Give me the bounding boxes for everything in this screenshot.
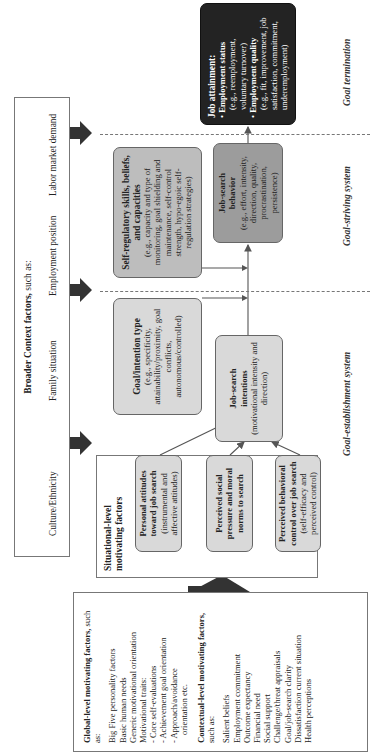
goal-intention-type-box: Goal/intention type (e.g., specificity, … bbox=[113, 298, 202, 415]
global-item: Basic human needs bbox=[118, 601, 128, 743]
situational-title: Situational-level motivating factors bbox=[103, 466, 125, 571]
context-item-labor: Labor market demand bbox=[48, 114, 58, 196]
context-item-family: Family situation bbox=[48, 340, 58, 401]
attainment-bullet: • Employment status bbox=[217, 42, 227, 118]
behavioral-control-box: Perceived behavioral control over job se… bbox=[275, 455, 321, 552]
job-search-model-diagram: Global-level motivating factors, such as… bbox=[0, 0, 379, 756]
contextual-item: Financial need bbox=[252, 601, 262, 743]
attainment-bullet: • Employment quality bbox=[248, 38, 258, 118]
global-item: Motivational traits: bbox=[138, 601, 148, 743]
job-search-intentions-box: Job-search intentions (motivational inte… bbox=[215, 335, 283, 442]
social-pressure-box: Perceived social pressure and moral norm… bbox=[206, 455, 253, 552]
broader-context-box: Broader Context factors, such as: Cultur… bbox=[14, 97, 70, 557]
divider-establishment-striving bbox=[100, 291, 370, 292]
goal-striving-label: Goal-striving system bbox=[342, 166, 352, 246]
job-search-behavior-box: Job-search behavior (e.g., effort, inten… bbox=[213, 143, 283, 243]
divider-striving-termination bbox=[100, 134, 370, 135]
context-item-employment: Employment position bbox=[48, 216, 58, 296]
global-item: - Core self-evaluations bbox=[148, 601, 158, 743]
contextual-item: Social support bbox=[262, 601, 272, 743]
goal-establishment-label: Goal-establishment system bbox=[342, 352, 352, 456]
contextual-item: Challenge/threat appraisals bbox=[272, 601, 282, 743]
global-item: Generic motivational orientation bbox=[128, 601, 138, 743]
contextual-item: Employment commitment bbox=[232, 601, 242, 743]
contextual-item: Dissatisfaction current situation bbox=[293, 601, 303, 743]
contextual-item: Salient beliefs bbox=[221, 601, 231, 743]
personal-attitudes-box: Personal attitudes toward job search (in… bbox=[135, 455, 182, 552]
goal-termination-label: Goal termination bbox=[342, 39, 352, 106]
contextual-item: Outcome expectancy bbox=[242, 601, 252, 743]
global-item: - Approach/avoidance bbox=[169, 601, 179, 743]
context-arrows bbox=[70, 121, 92, 455]
global-factors-box: Global-level motivating factors, such as… bbox=[73, 592, 368, 752]
global-item: - Achievement goal orientation bbox=[158, 601, 168, 743]
global-title: Global-level motivating factors, bbox=[82, 629, 92, 744]
contextual-title: Contextual-level motivating factors, bbox=[196, 613, 206, 743]
global-item: Big Five personality factors bbox=[107, 601, 117, 743]
self-regulatory-box: Self-regulatory skills, beliefs, and cap… bbox=[113, 147, 202, 278]
context-item-culture: Culture/Ethnicity bbox=[48, 471, 58, 536]
contextual-item: Goal/job-search clarity bbox=[283, 601, 293, 743]
contextual-item: Health perceptions bbox=[303, 601, 313, 743]
broader-context-title: Broader Context factors, bbox=[23, 293, 33, 394]
global-item: orientation etc. bbox=[179, 601, 189, 743]
job-attainment-box: Job attainment: • Employment status (e.g… bbox=[200, 3, 296, 125]
